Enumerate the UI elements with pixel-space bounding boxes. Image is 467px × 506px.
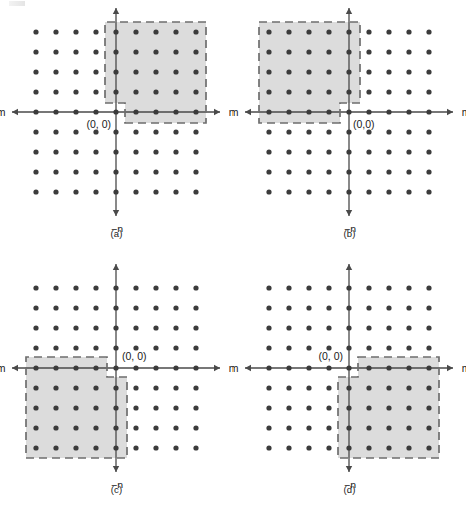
- svg-text:(0,0): (0,0): [353, 118, 375, 130]
- panel-c-caption: (c): [0, 484, 233, 495]
- svg-text:(0, 0): (0, 0): [318, 350, 343, 362]
- panel-a-plot: m−mn−n(0, 0): [0, 0, 233, 232]
- svg-text:n: n: [114, 256, 120, 258]
- svg-text:n: n: [347, 0, 353, 2]
- svg-text:n: n: [347, 256, 353, 258]
- svg-text:−m: −m: [233, 106, 239, 118]
- svg-text:−m: −m: [0, 106, 6, 118]
- figure-four-quadrant-lattices: m−mn−n(0, 0) (a) m−mn−n(0,0) (b) m−mn−n(…: [0, 0, 467, 506]
- panel-a: m−mn−n(0, 0) (a): [0, 0, 233, 253]
- panel-b-caption: (b): [233, 228, 466, 239]
- svg-text:−m: −m: [0, 362, 6, 374]
- svg-text:(0, 0): (0, 0): [122, 350, 147, 362]
- panel-b-plot: m−mn−n(0,0): [233, 0, 466, 232]
- panel-d-plot: m−mn−n(0, 0): [233, 256, 466, 488]
- panel-d-caption: (d): [233, 484, 466, 495]
- svg-text:m: m: [462, 362, 466, 374]
- svg-text:−m: −m: [233, 362, 239, 374]
- svg-text:n: n: [114, 0, 120, 2]
- panel-c: m−mn−n(0, 0) (c): [0, 256, 233, 506]
- panel-a-caption: (a): [0, 228, 233, 239]
- panel-b: m−mn−n(0,0) (b): [233, 0, 466, 253]
- svg-text:m: m: [462, 106, 466, 118]
- svg-text:(0, 0): (0, 0): [86, 118, 111, 130]
- panel-d: m−mn−n(0, 0) (d): [233, 256, 466, 506]
- panel-c-plot: m−mn−n(0, 0): [0, 256, 233, 488]
